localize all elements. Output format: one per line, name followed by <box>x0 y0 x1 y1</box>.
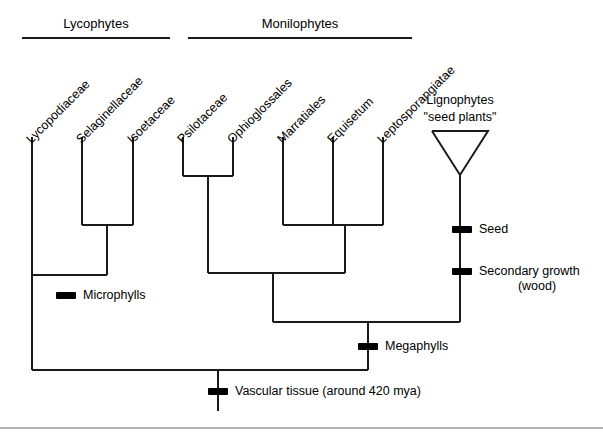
trait-label-secondary-growth-sub: (wood) <box>479 279 595 294</box>
triangle-label-seed-plants: "seed plants" <box>408 110 512 125</box>
trait-label-secondary-growth: Secondary growth (wood) <box>479 264 595 294</box>
trait-label-vascular-tissue: Vascular tissue (around 420 mya) <box>235 384 421 399</box>
trait-mark-megaphylls <box>358 343 378 350</box>
phylogenetic-tree-figure: Lycophytes Monilophytes Lycopodiaceae Se… <box>0 0 603 438</box>
trait-mark-seed <box>452 226 472 233</box>
trait-label-seed: Seed <box>479 222 508 237</box>
triangle-label-lignophytes: Lignophytes <box>408 93 512 108</box>
clade-label-monilophytes: Monilophytes <box>188 16 412 31</box>
trait-mark-secondary-growth <box>452 268 472 275</box>
trait-label-megaphylls: Megaphylls <box>385 339 448 354</box>
tree-diagram <box>0 0 603 438</box>
lignophytes-triangle <box>432 131 488 175</box>
clade-label-lycophytes: Lycophytes <box>22 16 170 31</box>
trait-mark-microphylls <box>56 292 76 299</box>
trait-label-secondary-growth-text: Secondary growth <box>479 264 580 278</box>
trait-label-microphylls: Microphylls <box>83 288 146 303</box>
trait-mark-vascular-tissue <box>208 388 228 395</box>
